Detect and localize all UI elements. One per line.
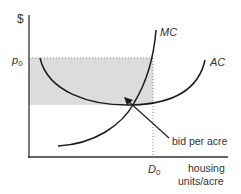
bid-arrow-line <box>128 101 169 138</box>
bid-per-acre-label: bid per acre <box>172 136 227 147</box>
d0-label: D0 <box>148 164 160 177</box>
d0-subscript: 0 <box>156 168 160 177</box>
bid-shaded-region <box>29 58 153 105</box>
p0-label: p0 <box>12 55 23 68</box>
x-axis-label-line1: housing <box>188 163 225 174</box>
y-axis-label: $ <box>17 13 24 25</box>
p0-subscript: 0 <box>18 59 22 68</box>
d0-letter: D <box>148 163 156 175</box>
ac-label: AC <box>210 57 225 68</box>
mc-label: MC <box>160 27 177 38</box>
x-axis-label-line2: units/acre <box>178 176 224 187</box>
